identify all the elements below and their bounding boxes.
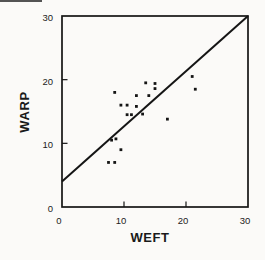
data-point: [147, 94, 150, 97]
y-axis-label: WARP: [17, 91, 32, 132]
data-point: [166, 118, 169, 121]
data-point: [126, 113, 129, 116]
y-tick-label: 0: [48, 203, 53, 214]
data-point: [120, 148, 123, 151]
data-point: [115, 137, 118, 140]
y-tick-label: 20: [42, 75, 53, 86]
plot-area: [0, 0, 265, 260]
data-point: [144, 81, 147, 84]
data-point: [113, 161, 116, 164]
data-point: [135, 105, 138, 108]
data-point: [130, 113, 133, 116]
data-point: [194, 88, 197, 91]
y-tick-label: 10: [42, 139, 53, 150]
x-tick-label: 0: [56, 215, 61, 226]
data-point: [141, 113, 144, 116]
axes-frame: [62, 16, 248, 207]
y-tick-label: 30: [42, 12, 53, 23]
x-axis-label: WEFT: [130, 230, 169, 245]
data-point: [191, 75, 194, 78]
x-tick-label: 10: [116, 215, 127, 226]
scatter-plot-figure: WARP WEFT 01020300102030: [0, 0, 265, 260]
data-point: [154, 82, 157, 85]
data-point: [107, 161, 110, 164]
data-point: [110, 139, 113, 142]
fit-line: [62, 16, 248, 182]
data-point: [113, 91, 116, 94]
x-tick-label: 30: [240, 215, 251, 226]
data-point: [154, 87, 157, 90]
data-point: [135, 94, 138, 97]
data-point: [126, 104, 129, 107]
data-point: [120, 104, 123, 107]
x-tick-label: 20: [178, 215, 189, 226]
